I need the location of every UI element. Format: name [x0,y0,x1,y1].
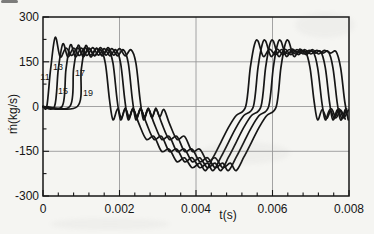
x-tick-label: 0.008 [324,203,374,215]
curve-label-19: 19 [83,89,93,98]
scan-smudge [200,142,290,164]
curve-label-13: 13 [53,63,63,72]
scan-smudge [50,218,170,230]
scan-smudge [295,12,355,38]
x-tick-label: 0.006 [248,203,298,215]
y-tick-label: 150 [3,56,39,68]
y-axis-title: ṁ(kg/s) [6,74,20,154]
scanned-figure-page: -300-150015030000.0020.0040.0060.0081113… [0,0,374,234]
x-tick-label: 0 [18,203,68,215]
x-tick-label: 0.002 [95,203,145,215]
curve-label-17: 17 [75,69,85,78]
y-tick-label: -300 [3,190,39,202]
curve-label-11: 11 [40,73,49,82]
y-tick-label: 300 [3,11,39,23]
scan-artifact [1,0,18,3]
x-axis-title: t(s) [205,209,251,221]
curve-label-15: 15 [58,87,68,96]
